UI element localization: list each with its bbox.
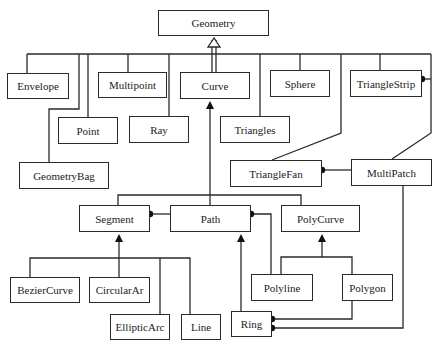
class-polyline: Polyline [251, 274, 313, 301]
class-ring: Ring [231, 311, 272, 337]
class-label: Sphere [285, 78, 316, 90]
class-line: Line [181, 314, 221, 340]
class-path: Path [170, 205, 251, 232]
class-label: Ring [241, 318, 262, 330]
class-trianglefan: TriangleFan [230, 160, 322, 187]
arrowhead-icon [237, 234, 245, 242]
class-label: Ray [150, 124, 168, 136]
class-label: Polyline [264, 282, 301, 294]
class-multipatch: MultiPatch [351, 159, 432, 186]
class-label: Segment [95, 213, 134, 225]
class-multipoint: Multipoint [98, 72, 167, 98]
class-label: Multipoint [109, 79, 156, 91]
class-beziercurve: BezierCurve [10, 277, 80, 303]
arrowhead-icon [206, 101, 214, 109]
class-ray: Ray [129, 116, 189, 143]
class-trianglestrip: TriangleStrip [350, 70, 422, 97]
class-label: TriangleStrip [357, 78, 415, 90]
class-curve: Curve [180, 72, 250, 99]
class-label: Triangles [234, 124, 275, 136]
arrowhead-icon [115, 234, 123, 242]
hollow-arrowhead-icon [208, 38, 220, 47]
class-label: Curve [202, 80, 229, 92]
class-envelope: Envelope [7, 73, 69, 99]
class-triangles: Triangles [220, 116, 290, 143]
class-label: BezierCurve [17, 284, 73, 296]
geometrybag-link [49, 54, 79, 162]
class-label: TriangleFan [249, 168, 302, 180]
class-label: Geometry [192, 17, 236, 29]
class-ellipticarc: EllipticArc [110, 314, 170, 340]
class-label: EllipticArc [116, 321, 165, 333]
class-polygon: Polygon [342, 274, 393, 301]
class-point: Point [58, 117, 118, 144]
class-label: Envelope [17, 80, 59, 92]
class-label: Path [201, 213, 221, 225]
class-label: MultiPatch [367, 167, 416, 179]
class-label: Line [191, 321, 211, 333]
class-geometrybag: GeometryBag [19, 162, 109, 189]
class-geometry: Geometry [158, 10, 269, 36]
class-segment: Segment [79, 205, 150, 232]
class-label: Polygon [349, 282, 386, 294]
class-label: CircularAr [96, 284, 144, 296]
class-circulararc: CircularAr [89, 277, 150, 303]
class-label: Point [76, 125, 99, 137]
class-sphere: Sphere [270, 70, 330, 97]
class-label: PolyCurve [297, 213, 344, 225]
class-polycurve: PolyCurve [281, 205, 360, 232]
class-label: GeometryBag [33, 170, 95, 182]
arrowhead-icon [318, 234, 326, 242]
